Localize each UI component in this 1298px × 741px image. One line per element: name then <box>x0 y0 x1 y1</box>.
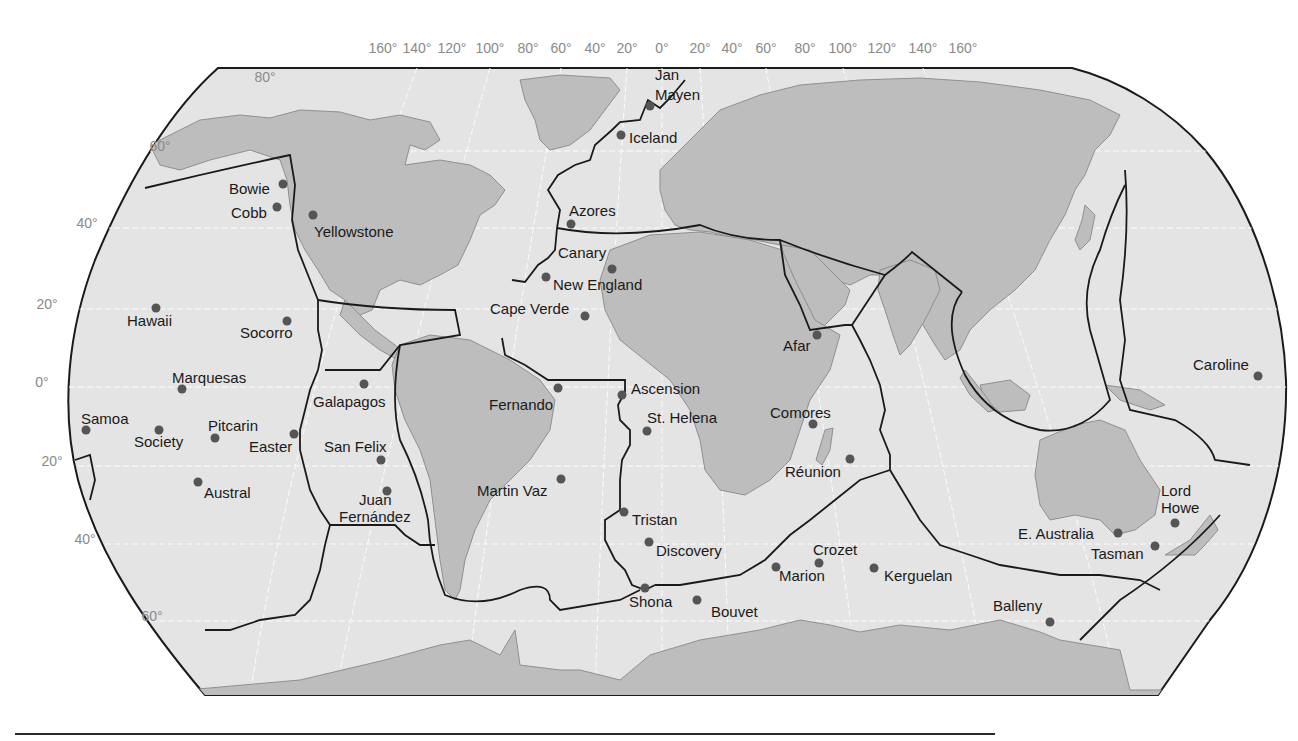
world-hotspot-map: 160°140°120°100°80°60°40°20°0°20°40°60°8… <box>0 0 1298 741</box>
hotspot-label: Marion <box>779 567 825 584</box>
hotspot-label: Afar <box>783 337 811 354</box>
hotspot-dot-icon <box>279 180 288 189</box>
latitude-label: 80° <box>254 69 275 85</box>
hotspot-label: Caroline <box>1193 356 1249 373</box>
hotspot-dot-icon <box>194 478 203 487</box>
hotspot-label: Lord <box>1161 482 1191 499</box>
hotspot-label: Azores <box>569 202 616 219</box>
longitude-label: 80° <box>794 40 815 56</box>
longitude-label: 20° <box>616 40 637 56</box>
hotspot-label: Martin Vaz <box>477 482 548 499</box>
hotspot-dot-icon <box>617 131 626 140</box>
hotspot-label: Juan <box>359 491 392 508</box>
latitude-label: 60° <box>141 608 162 624</box>
hotspot-marker[interactable]: New England <box>542 273 643 294</box>
longitude-label: 120° <box>438 40 467 56</box>
latitude-label: 20° <box>36 296 57 312</box>
hotspot-dot-icon <box>618 391 627 400</box>
hotspot-label: E. Australia <box>1018 525 1095 542</box>
hotspot-dot-icon <box>846 455 855 464</box>
latitude-label: 40° <box>74 531 95 547</box>
hotspot-label: Tasman <box>1091 545 1144 562</box>
hotspot-dot-icon <box>870 564 879 573</box>
hotspot-dot-icon <box>1046 618 1055 627</box>
hotspot-dot-icon <box>211 434 220 443</box>
bottom-rule <box>15 733 995 735</box>
latitude-label: 20° <box>41 453 62 469</box>
hotspot-label: Ascension <box>631 380 700 397</box>
hotspot-dot-icon <box>1151 542 1160 551</box>
latitude-label: 40° <box>76 215 97 231</box>
hotspot-label: Comores <box>770 404 831 421</box>
longitude-label: 140° <box>403 40 432 56</box>
longitude-label: 80° <box>517 40 538 56</box>
hotspot-dot-icon <box>273 203 282 212</box>
hotspot-label: Pitcarin <box>208 417 258 434</box>
hotspot-label: Austral <box>204 484 251 501</box>
hotspot-label: Crozet <box>813 541 858 558</box>
hotspot-label: San Felix <box>324 438 387 455</box>
hotspot-dot-icon <box>309 211 318 220</box>
hotspot-dot-icon <box>1114 529 1123 538</box>
longitude-label: 20° <box>689 40 710 56</box>
hotspot-label: Galapagos <box>313 393 386 410</box>
hotspot-dot-icon <box>643 427 652 436</box>
hotspot-label: Fernando <box>489 396 553 413</box>
hotspot-label: Tristan <box>632 511 677 528</box>
longitude-label: 100° <box>829 40 858 56</box>
latitude-label: 60° <box>149 138 170 154</box>
hotspot-label: Mayen <box>655 86 700 103</box>
hotspot-dot-icon <box>554 384 563 393</box>
hotspot-label: Easter <box>249 438 292 455</box>
hotspot-label: Réunion <box>785 463 841 480</box>
hotspot-label: Bowie <box>229 180 270 197</box>
hotspot-dot-icon <box>608 265 617 274</box>
hotspot-label: Shona <box>629 593 673 610</box>
latitude-label: 0° <box>35 374 48 390</box>
hotspot-dot-icon <box>360 380 369 389</box>
hotspot-dot-icon <box>377 456 386 465</box>
hotspot-label: Canary <box>558 244 607 261</box>
hotspot-label: Fernández <box>339 508 411 525</box>
hotspot-label: Hawaii <box>127 312 172 329</box>
hotspot-label: Socorro <box>240 324 293 341</box>
hotspot-dot-icon <box>567 220 576 229</box>
longitude-label: 40° <box>584 40 605 56</box>
hotspot-label: Iceland <box>629 129 677 146</box>
longitude-label: 160° <box>369 40 398 56</box>
longitude-labels: 160°140°120°100°80°60°40°20°0°20°40°60°8… <box>369 40 978 56</box>
longitude-label: 140° <box>909 40 938 56</box>
longitude-label: 160° <box>949 40 978 56</box>
hotspot-label: Bouvet <box>711 603 759 620</box>
hotspot-dot-icon <box>646 102 655 111</box>
hotspot-dot-icon <box>693 596 702 605</box>
hotspot-label: St. Helena <box>647 409 718 426</box>
longitude-label: 0° <box>655 40 668 56</box>
hotspot-label: Cobb <box>231 204 267 221</box>
hotspot-dot-icon <box>581 312 590 321</box>
hotspot-dot-icon <box>1171 519 1180 528</box>
hotspot-dot-icon <box>557 475 566 484</box>
longitude-label: 60° <box>755 40 776 56</box>
hotspot-dot-icon <box>542 273 551 282</box>
hotspot-label: Jan <box>655 66 679 83</box>
hotspot-label: New England <box>553 276 642 293</box>
hotspot-label: Discovery <box>656 542 722 559</box>
hotspot-dot-icon <box>813 331 822 340</box>
hotspot-dot-icon <box>620 508 629 517</box>
longitude-label: 120° <box>868 40 897 56</box>
hotspot-label: Society <box>134 433 184 450</box>
hotspot-label: Kerguelan <box>884 567 952 584</box>
longitude-label: 60° <box>550 40 571 56</box>
hotspot-label: Samoa <box>81 410 129 427</box>
longitude-label: 100° <box>476 40 505 56</box>
hotspot-label: Cape Verde <box>490 300 569 317</box>
longitude-label: 40° <box>721 40 742 56</box>
hotspot-label: Yellowstone <box>314 223 394 240</box>
hotspot-dot-icon <box>1254 372 1263 381</box>
hotspot-dot-icon <box>641 584 650 593</box>
hotspot-label: Marquesas <box>172 369 246 386</box>
hotspot-label: Howe <box>1161 499 1199 516</box>
hotspot-label: Balleny <box>993 597 1043 614</box>
hotspot-dot-icon <box>645 538 654 547</box>
